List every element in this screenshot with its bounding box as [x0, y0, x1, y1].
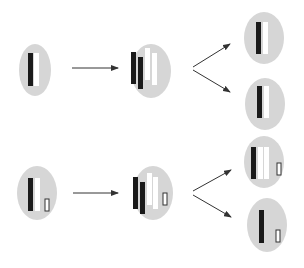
light-strand	[153, 177, 158, 209]
dark-strand	[251, 147, 256, 179]
dark-strand	[140, 182, 145, 214]
light-strand	[264, 86, 269, 118]
light-strand	[147, 173, 152, 205]
parent-cell-2	[17, 166, 57, 220]
replicated-cell-2	[133, 166, 173, 220]
daughter-cell-1-1	[244, 12, 284, 64]
dark-strand	[28, 178, 33, 211]
light-strand	[263, 22, 268, 54]
dark-strand	[131, 52, 136, 84]
dark-strand	[259, 210, 264, 243]
division-arrow-icon	[193, 170, 231, 191]
cell-division-diagram	[0, 0, 304, 268]
cell-body	[247, 198, 287, 252]
light-strand	[35, 178, 40, 211]
dark-strand	[257, 86, 262, 118]
parent-cell-1	[19, 44, 51, 96]
division-arrow-icon	[193, 70, 230, 92]
small-strand	[277, 163, 281, 175]
light-strand	[152, 53, 157, 85]
light-strand	[264, 147, 269, 179]
light-strand	[145, 48, 150, 80]
light-strand	[258, 147, 263, 179]
light-strand	[34, 53, 39, 86]
daughter-cell-2-1	[244, 136, 284, 188]
daughter-cell-1-2	[245, 78, 285, 130]
small-strand	[163, 193, 167, 205]
dark-strand	[133, 177, 138, 209]
daughter-cell-2-2	[247, 198, 287, 252]
division-arrow-icon	[193, 44, 230, 67]
division-arrow-icon	[193, 195, 231, 217]
diagram-layer	[17, 12, 287, 252]
dark-strand	[138, 57, 143, 89]
small-strand	[45, 199, 49, 211]
replicated-cell-1	[131, 44, 171, 98]
dark-strand	[256, 22, 261, 54]
dark-strand	[28, 53, 33, 86]
cell-body	[131, 44, 171, 98]
small-strand	[276, 230, 280, 242]
